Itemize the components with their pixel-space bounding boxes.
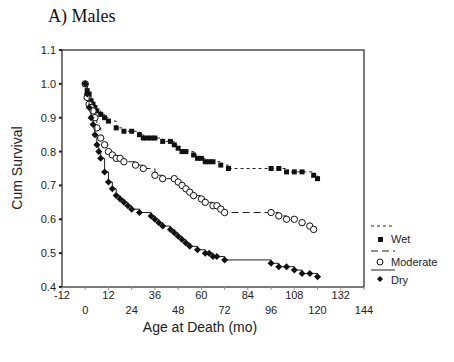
x-tick-label: 72 <box>218 304 230 316</box>
data-point <box>284 169 289 174</box>
x-axis-label: Age at Death (mo) <box>143 319 257 335</box>
data-point <box>221 209 227 215</box>
x-tick-label: 84 <box>242 289 254 301</box>
data-point <box>101 142 107 148</box>
data-point <box>315 176 320 181</box>
data-point <box>202 199 208 205</box>
square-marker-icon <box>378 237 383 242</box>
data-point <box>275 263 282 270</box>
series-line-dry <box>85 84 317 277</box>
data-point <box>183 149 188 154</box>
data-point <box>106 119 111 124</box>
data-point <box>152 136 157 141</box>
data-point <box>152 172 158 178</box>
data-point <box>306 270 313 277</box>
diamond-marker-icon <box>377 276 383 282</box>
data-point <box>98 135 104 141</box>
data-point <box>114 125 119 130</box>
y-tick-label: 0.9 <box>41 112 56 124</box>
data-point <box>194 246 201 253</box>
legend-dry-label: Dry <box>391 274 409 286</box>
data-point <box>292 169 297 174</box>
y-axis: 0.40.50.60.70.80.91.01.1 <box>41 44 62 293</box>
plot-frame <box>62 50 364 287</box>
series-line-wet <box>85 84 317 179</box>
series-group <box>82 80 321 280</box>
data-point <box>283 216 289 222</box>
data-point <box>213 253 220 260</box>
y-tick-label: 1.1 <box>41 44 56 56</box>
x-tick-label: 108 <box>285 289 303 301</box>
data-point <box>268 209 274 215</box>
x-tick-label: 120 <box>308 304 326 316</box>
data-point <box>211 159 216 164</box>
data-point <box>283 263 290 270</box>
data-point <box>299 219 305 225</box>
x-tick-label: 48 <box>172 304 184 316</box>
legend-moderate-label: Moderate <box>391 256 437 268</box>
data-point <box>276 213 282 219</box>
x-tick-label: 132 <box>332 289 350 301</box>
data-point <box>291 216 297 222</box>
data-point <box>129 129 134 134</box>
legend-wet-label: Wet <box>391 233 410 245</box>
data-point <box>269 166 274 171</box>
x-axis: -1201224364860728496108120132144 <box>54 287 373 316</box>
data-point <box>218 163 223 168</box>
data-point <box>300 169 305 174</box>
y-tick-label: 0.7 <box>41 179 56 191</box>
x-tick-label: -12 <box>54 289 70 301</box>
data-point <box>93 141 100 148</box>
data-point <box>140 165 146 171</box>
data-point <box>299 270 306 277</box>
data-point <box>97 155 104 162</box>
y-tick-label: 0.6 <box>41 213 56 225</box>
data-point <box>226 166 231 171</box>
y-tick-label: 1.0 <box>41 78 56 90</box>
data-point <box>291 267 298 274</box>
data-point <box>121 159 127 165</box>
x-tick-label: 60 <box>195 289 207 301</box>
data-point <box>132 162 138 168</box>
x-tick-label: 24 <box>126 304 138 316</box>
legend: Wet Moderate Dry <box>371 226 437 286</box>
x-tick-label: 0 <box>82 304 88 316</box>
data-point <box>190 192 196 198</box>
x-tick-label: 36 <box>149 289 161 301</box>
data-point <box>314 273 321 280</box>
x-tick-label: 12 <box>102 289 114 301</box>
y-tick-label: 0.8 <box>41 146 56 158</box>
data-point <box>160 139 165 144</box>
y-axis-label: Cum Survival <box>9 126 25 209</box>
data-point <box>109 185 116 192</box>
data-point <box>121 129 126 134</box>
y-tick-label: 0.5 <box>41 247 56 259</box>
data-point <box>105 179 112 186</box>
data-point <box>221 256 228 263</box>
data-point <box>310 226 316 232</box>
data-point <box>101 168 108 175</box>
circle-marker-icon <box>377 259 383 265</box>
x-tick-label: 144 <box>355 304 373 316</box>
data-point <box>159 175 165 181</box>
x-tick-label: 96 <box>265 304 277 316</box>
data-point <box>95 148 102 155</box>
data-point <box>276 166 281 171</box>
survival-chart: 0.40.50.60.70.80.91.01.1 -12012243648607… <box>0 0 454 362</box>
data-point <box>268 260 275 267</box>
data-point <box>136 209 143 216</box>
